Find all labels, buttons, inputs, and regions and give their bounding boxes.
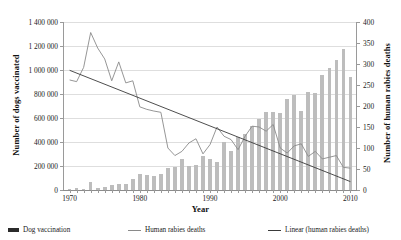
x-tickmark — [147, 190, 148, 193]
x-tickmark — [161, 190, 162, 193]
y-tickmark-right — [357, 64, 360, 65]
y-tickmark-right — [357, 22, 360, 23]
x-tickmark — [105, 190, 106, 193]
x-tickmark — [301, 190, 302, 193]
legend-line-swatch-icon — [128, 230, 141, 231]
x-tickmark — [189, 190, 190, 193]
y-tick-label-right: 250 — [363, 81, 401, 90]
x-tickmark — [273, 190, 274, 193]
x-tickmark — [308, 190, 309, 193]
y-tick-label-right: 200 — [363, 102, 401, 111]
y-tick-label-right: 50 — [363, 165, 401, 174]
x-tick-label: 1980 — [120, 194, 160, 203]
x-tickmark — [350, 190, 351, 193]
y-tick-label-left: 600 000 — [10, 114, 58, 123]
x-tickmark — [182, 190, 183, 193]
x-tickmark — [315, 190, 316, 193]
x-tickmark — [238, 190, 239, 193]
y-tickmark-left — [60, 166, 63, 167]
y-tick-label-left: 1 200 000 — [10, 42, 58, 51]
y-tickmark-right — [357, 190, 360, 191]
y-tick-label-left: 800 000 — [10, 90, 58, 99]
y-tick-label-left: 200 000 — [10, 162, 58, 171]
x-tickmark — [112, 190, 113, 193]
x-tick-label: 2010 — [330, 194, 370, 203]
x-tickmark — [140, 190, 141, 193]
x-tickmark — [294, 190, 295, 193]
y-tick-label-right: 300 — [363, 60, 401, 69]
x-tickmark — [70, 190, 71, 193]
y-tickmark-right — [357, 85, 360, 86]
y-tickmark-right — [357, 148, 360, 149]
legend-item[interactable]: Human rabies deaths — [128, 226, 205, 234]
x-tickmark — [210, 190, 211, 193]
x-tickmark — [280, 190, 281, 193]
x-tick-label: 1990 — [190, 194, 230, 203]
y-tickmark-right — [357, 43, 360, 44]
y-tickmark-left — [60, 142, 63, 143]
y-tickmark-left — [60, 22, 63, 23]
x-tickmark — [119, 190, 120, 193]
x-tickmark — [259, 190, 260, 193]
x-tickmark — [126, 190, 127, 193]
y-tickmark-left — [60, 46, 63, 47]
y-axis-title-left: Number of dogs vaccinated — [11, 35, 21, 175]
x-tickmark — [203, 190, 204, 193]
y-tickmark-left — [60, 70, 63, 71]
x-tickmark — [252, 190, 253, 193]
x-tickmark — [91, 190, 92, 193]
y-tickmark-left — [60, 118, 63, 119]
human-rabies-deaths-line — [70, 33, 351, 169]
y-tick-label-left: 1 400 000 — [10, 18, 58, 27]
y-tick-label-left: 1 000 000 — [10, 66, 58, 75]
x-tickmark — [77, 190, 78, 193]
legend-item[interactable]: Linear (human rabies deaths) — [268, 226, 369, 234]
x-tickmark — [287, 190, 288, 193]
y-tick-label-right: 350 — [363, 39, 401, 48]
legend-trendline-swatch-icon — [268, 230, 281, 231]
x-tickmark — [196, 190, 197, 193]
linear-trendline — [70, 70, 351, 181]
x-tickmark — [224, 190, 225, 193]
x-tick-label: 2000 — [260, 194, 300, 203]
x-tick-label: 1970 — [50, 194, 90, 203]
x-axis-title: Year — [0, 204, 401, 214]
y-tickmark-right — [357, 169, 360, 170]
x-tickmark — [84, 190, 85, 193]
y-tick-label-right: 400 — [363, 18, 401, 27]
x-tickmark — [266, 190, 267, 193]
legend-label: Linear (human rabies deaths) — [285, 226, 369, 234]
x-tickmark — [133, 190, 134, 193]
legend-label: Dog vaccination — [23, 226, 70, 234]
rabies-chart: Number of dogs vaccinated Number of huma… — [0, 0, 401, 240]
plot-area — [64, 22, 356, 190]
y-tick-label-right: 150 — [363, 123, 401, 132]
x-tickmark — [154, 190, 155, 193]
y-tickmark-right — [357, 106, 360, 107]
x-tickmark — [217, 190, 218, 193]
y-tickmark-right — [357, 127, 360, 128]
x-tickmark — [168, 190, 169, 193]
legend-item[interactable]: Dog vaccination — [8, 226, 70, 234]
x-tickmark — [329, 190, 330, 193]
x-tickmark — [322, 190, 323, 193]
x-tickmark — [245, 190, 246, 193]
legend-bar-swatch-icon — [8, 228, 19, 232]
legend-label: Human rabies deaths — [145, 226, 205, 234]
line-series-overlay — [64, 22, 356, 190]
x-tickmark — [98, 190, 99, 193]
x-tickmark — [231, 190, 232, 193]
x-tickmark — [175, 190, 176, 193]
y-tickmark-left — [60, 190, 63, 191]
x-tickmark — [343, 190, 344, 193]
y-tick-label-right: 100 — [363, 144, 401, 153]
legend: Dog vaccinationHuman rabies deathsLinear… — [0, 224, 401, 238]
y-tick-label-left: 400 000 — [10, 138, 58, 147]
y-tickmark-left — [60, 94, 63, 95]
x-tickmark — [336, 190, 337, 193]
